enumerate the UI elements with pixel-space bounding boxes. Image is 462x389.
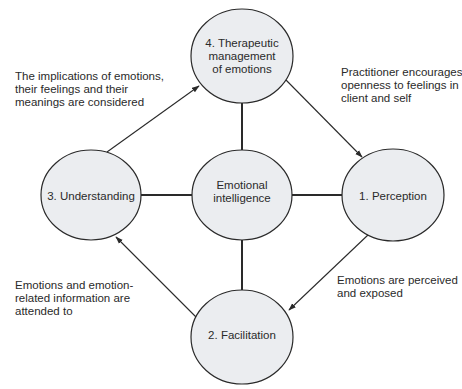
annotation-line: Emotions are perceived xyxy=(337,274,458,287)
node-therapeutic-line-1: 4. Therapeutic xyxy=(205,37,278,50)
node-facilitation-line-1: 2. Facilitation xyxy=(208,329,276,342)
node-center-line-2: intelligence xyxy=(213,192,271,205)
node-center-line-1: Emotional xyxy=(216,179,267,192)
annotation-line: Practitioner encourages xyxy=(341,66,462,79)
node-center-label: Emotional intelligence xyxy=(192,172,292,212)
annotation-therapeutic-to-perception: Practitioner encourages openness to feel… xyxy=(341,66,462,105)
annotation-line: related information are xyxy=(15,292,133,305)
annotation-line: attended to xyxy=(15,305,133,318)
annotation-perception-to-facilitation: Emotions are perceived and exposed xyxy=(337,274,458,300)
annotation-line: Emotions and emotion- xyxy=(15,279,133,292)
annotation-line: openness to feelings in xyxy=(341,79,462,92)
node-perception-label: 1. Perception xyxy=(343,186,443,206)
node-facilitation-label: 2. Facilitation xyxy=(192,325,292,345)
node-therapeutic-label: 4. Therapeutic management of emotions xyxy=(192,16,292,96)
annotation-line: their feelings and their xyxy=(15,83,164,96)
annotation-line: The implications of emotions, xyxy=(15,70,164,83)
annotation-line: and exposed xyxy=(337,287,458,300)
annotation-facilitation-to-understanding: Emotions and emotion- related informatio… xyxy=(15,279,133,318)
node-therapeutic-line-3: of emotions xyxy=(212,63,271,76)
node-therapeutic-line-2: management xyxy=(208,50,275,63)
node-understanding-label: 3. Understanding xyxy=(41,186,141,206)
node-understanding-line-1: 3. Understanding xyxy=(47,190,135,203)
annotation-line: meanings are considered xyxy=(15,96,164,109)
annotation-line: client and self xyxy=(341,92,462,105)
annotation-understanding-to-therapeutic: The implications of emotions, their feel… xyxy=(15,70,164,109)
node-perception-line-1: 1. Perception xyxy=(359,190,427,203)
